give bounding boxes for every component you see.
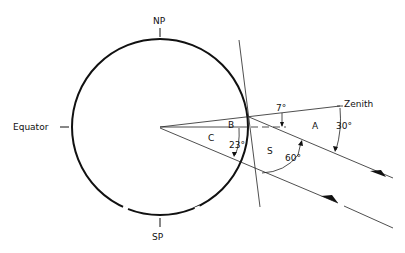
label-a: A [312, 121, 319, 131]
label-zenith: Zenith [344, 99, 373, 109]
label-b: B [228, 120, 234, 130]
circle-gap-left [123, 207, 128, 209]
lower-sun-ray [160, 128, 338, 203]
angle-23-label: 23° [229, 140, 245, 150]
label-equator: Equator [13, 122, 49, 132]
angle-30-label: 30° [336, 121, 352, 131]
angle-60-arrowhead-icon [298, 140, 303, 146]
label-c: C [208, 133, 214, 143]
angle-23-arrowhead-icon [232, 152, 237, 157]
angle-30-arrowhead-icon [333, 146, 338, 152]
circle-gap-right [195, 207, 200, 209]
angle-7-label: 7° [276, 103, 286, 113]
label-s: S [267, 146, 273, 156]
lower-ray-arrow-icon [321, 195, 338, 203]
angle-7-arrowhead-icon [280, 122, 284, 127]
angle-60-label: 60° [285, 153, 301, 163]
solar-geometry-diagram: NP SP Equator Zenith A B C S 7° 30° 60° … [0, 0, 405, 253]
tangent-line [239, 40, 260, 207]
label-sp: SP [152, 232, 164, 242]
upper-ray-arrow-icon [370, 170, 386, 177]
lower-sun-ray-tail [344, 206, 393, 228]
label-np: NP [153, 16, 166, 26]
